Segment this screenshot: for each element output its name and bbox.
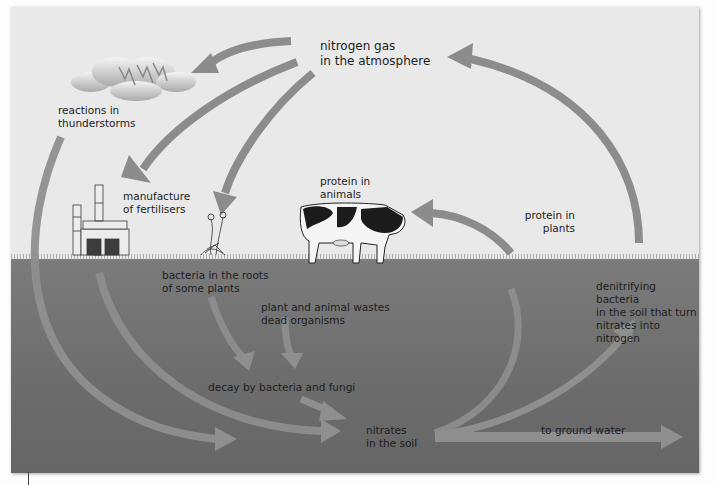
arrowhead-nitrates-2 [321, 419, 341, 443]
label-ground-water: to ground water [541, 424, 625, 437]
label-wastes: plant and animal wastes dead organisms [261, 301, 390, 327]
page: nitrogen gas in the atmosphere reactions… [0, 0, 716, 485]
label-protein-plants: protein in plants [477, 209, 575, 235]
nitrogen-cycle-diagram: nitrogen gas in the atmosphere reactions… [11, 7, 699, 473]
thundercloud-icon [71, 57, 196, 101]
arrowhead-nitrates-3 [319, 401, 347, 421]
arrow-nitrogen-to-thunderstorms [211, 41, 291, 63]
label-decay: decay by bacteria and fungi [208, 381, 355, 394]
cow-icon [300, 203, 405, 263]
label-denitrifying: denitrifying bacteria in the soil that t… [596, 280, 699, 345]
label-fertilisers: manufacture of fertilisers [123, 190, 190, 216]
arrow-roots-to-decay [211, 297, 243, 357]
arrowhead-ground-water [661, 425, 683, 449]
margin-tick-mark [28, 472, 29, 485]
diagram-artwork [11, 7, 699, 473]
label-protein-animals: protein in animals [320, 175, 370, 201]
arrowhead-nitrates-1 [215, 427, 237, 451]
label-bacteria-roots: bacteria in the roots of some plants [162, 269, 268, 295]
arrowhead-plant [213, 191, 237, 215]
plant-icon [201, 212, 226, 255]
arrowhead-animals [411, 199, 433, 227]
label-nitrates: nitrates in the soil [366, 424, 417, 450]
arrowhead-atmosphere [447, 43, 473, 69]
label-thunderstorms: reactions in thunderstorms [58, 104, 135, 130]
arrow-nitrates-to-plants [435, 289, 518, 433]
arrowhead-decay-2 [281, 353, 303, 369]
factory-icon [73, 185, 129, 255]
label-nitrogen-gas: nitrogen gas in the atmosphere [320, 39, 430, 69]
